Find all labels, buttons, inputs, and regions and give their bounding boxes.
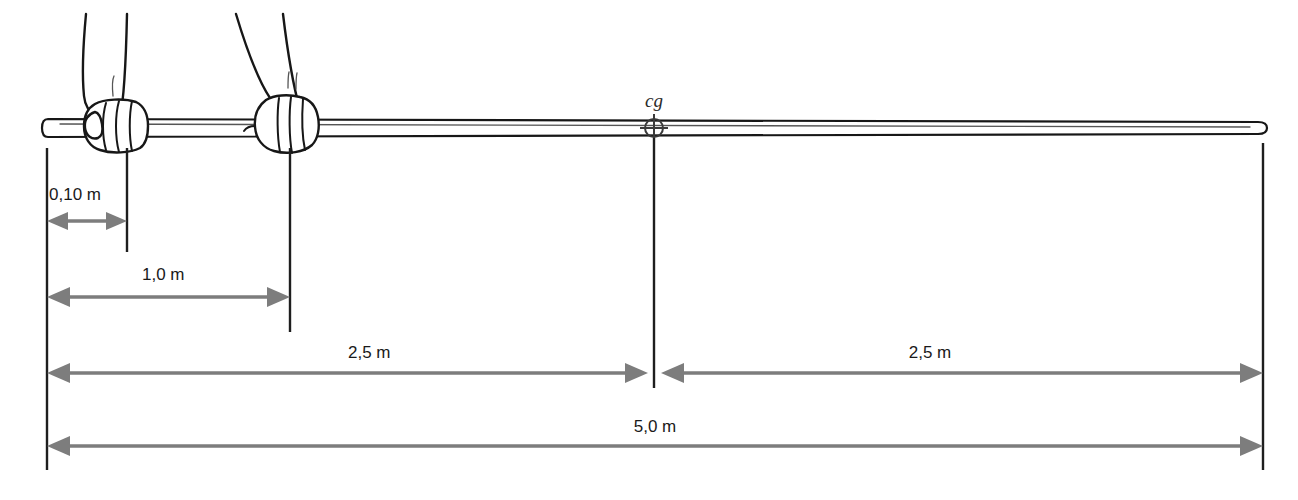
dimension-left-half: 2,5 m <box>47 343 648 383</box>
arrow-head-left-hand-offset <box>47 212 68 230</box>
arrow-head-right-total-length <box>1240 436 1263 456</box>
palm-front <box>255 95 319 152</box>
dimension-label-right-half: 2,5 m <box>909 343 952 362</box>
arrow-head-right-hand-spacing <box>267 287 290 307</box>
cg-label: cg <box>645 90 663 111</box>
arrow-head-right-left-half <box>625 363 648 383</box>
thumb-rear <box>85 112 103 139</box>
dimension-label-hand-offset: 0,10 m <box>49 185 101 204</box>
arrow-head-left-left-half <box>47 363 70 383</box>
pole-dimension-diagram: cg 0,10 m 1,0 m <box>0 0 1298 500</box>
arrow-head-right-right-half <box>1240 363 1263 383</box>
hand-rear-group <box>83 14 148 152</box>
dimension-right-half: 2,5 m <box>661 343 1263 383</box>
arrow-head-left-total-length <box>47 436 70 456</box>
dimension-label-hand-spacing: 1,0 m <box>142 265 185 284</box>
arrow-head-left-hand-spacing <box>47 287 70 307</box>
dimension-label-total-length: 5,0 m <box>634 417 677 436</box>
tendon-front-2 <box>296 73 297 89</box>
dimension-total-length: 5,0 m <box>47 417 1263 456</box>
dimension-hand-spacing: 1,0 m <box>47 265 290 307</box>
dimension-label-left-half: 2,5 m <box>348 343 391 362</box>
diagram-canvas: cg 0,10 m 1,0 m <box>0 0 1298 500</box>
dimension-hand-offset: 0,10 m <box>47 185 127 230</box>
arrow-head-right-hand-offset <box>106 212 127 230</box>
arrow-head-left-right-half <box>661 363 684 383</box>
